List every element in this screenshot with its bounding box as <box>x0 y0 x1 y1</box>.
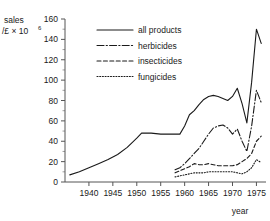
legend-label-all-products: all products <box>138 25 181 35</box>
x-tick-label: 1950 <box>127 188 146 198</box>
plot-series-group <box>70 29 261 177</box>
series-line-all-products <box>70 29 261 175</box>
x-tick-label: 1975 <box>247 188 266 198</box>
y-tick-label: 120 <box>44 55 58 65</box>
x-tick-label: 1945 <box>103 188 122 198</box>
series-line-insecticides <box>175 136 261 173</box>
x-axis-title: year <box>232 206 249 216</box>
y-tick-label: 100 <box>44 75 58 85</box>
y-axis-ticks: 020406080100120140160 <box>44 14 65 187</box>
chart-container: sales /£ × 10 6 020406080100120140160 19… <box>0 0 270 221</box>
x-axis-ticks: 19401945195019551960196519701975 <box>79 182 266 198</box>
chart-legend: all productsherbicidesinsecticidesfungic… <box>97 25 182 82</box>
y-axis-title-line2: /£ × 10 <box>2 26 29 36</box>
y-tick-label: 80 <box>49 96 59 106</box>
series-line-fungicides <box>175 160 261 177</box>
x-tick-label: 1970 <box>223 188 242 198</box>
line-chart: sales /£ × 10 6 020406080100120140160 19… <box>0 0 270 221</box>
y-tick-label: 20 <box>49 157 59 167</box>
x-tick-label: 1965 <box>199 188 218 198</box>
y-axis-title: sales /£ × 10 6 <box>2 15 42 36</box>
y-tick-label: 40 <box>49 136 59 146</box>
y-tick-label: 0 <box>53 177 58 187</box>
legend-label-herbicides: herbicides <box>138 41 177 51</box>
legend-label-insecticides: insecticides <box>138 56 182 66</box>
series-line-herbicides <box>175 90 261 169</box>
x-tick-label: 1955 <box>151 188 170 198</box>
y-tick-label: 140 <box>44 34 58 44</box>
y-axis-title-line1: sales <box>4 15 24 25</box>
legend-label-fungicides: fungicides <box>138 72 176 82</box>
y-tick-label: 60 <box>49 116 59 126</box>
y-tick-label: 160 <box>44 14 58 24</box>
y-axis-title-exponent: 6 <box>38 25 42 31</box>
x-tick-label: 1960 <box>175 188 194 198</box>
x-tick-label: 1940 <box>79 188 98 198</box>
